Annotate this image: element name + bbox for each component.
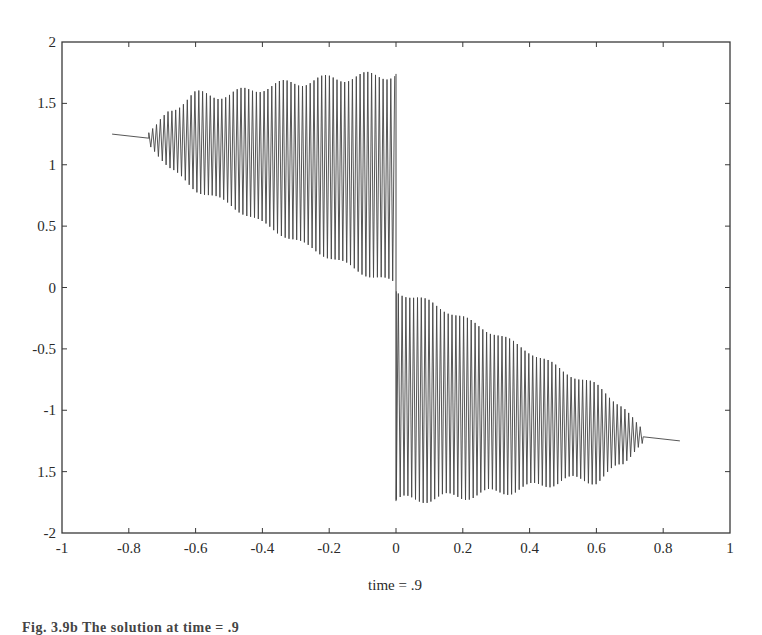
figure-caption: Fig. 3.9b The solution at time = .9 [22,620,239,635]
signal-left [112,72,395,281]
x-tick-label: 1 [726,540,734,556]
y-tick-label: -1 [44,402,57,418]
y-tick-label: 0 [49,280,57,296]
x-tick-label: 0 [392,540,400,556]
y-tick-label: 1.5 [37,464,56,480]
x-axis: -1-0.8-0.6-0.4-0.200.20.40.60.81 [56,42,734,556]
x-tick-label: 0.2 [453,540,472,556]
y-axis: 21.510.50-0.5-11.5-2 [32,34,730,541]
y-tick-label: 2 [49,34,57,50]
x-axis-label: time = .9 [368,577,422,593]
x-tick-label: 0.4 [520,540,539,556]
x-tick-label: -0.4 [251,540,275,556]
x-tick-label: -0.6 [184,540,208,556]
x-tick-label: -0.8 [117,540,141,556]
x-tick-label: -1 [56,540,69,556]
oscillating-signal [112,72,680,503]
y-tick-label: -0.5 [32,341,56,357]
y-tick-label: 1 [49,157,57,173]
x-tick-label: 0.6 [587,540,606,556]
chart: -1-0.8-0.6-0.4-0.200.20.40.60.81 21.510.… [0,0,762,635]
x-tick-label: -0.2 [317,540,341,556]
signal-right [396,291,680,503]
y-tick-label: 1.5 [37,95,56,111]
y-tick-label: 0.5 [37,218,56,234]
y-tick-label: -2 [44,525,57,541]
x-tick-label: 0.8 [654,540,673,556]
